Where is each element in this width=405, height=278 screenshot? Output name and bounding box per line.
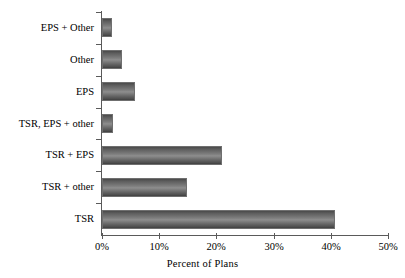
y-axis-label: EPS + Other bbox=[41, 22, 94, 34]
bar-fill bbox=[102, 146, 222, 165]
bar-fill bbox=[102, 114, 113, 133]
y-tick-mark bbox=[96, 12, 102, 13]
y-tick-mark bbox=[96, 203, 102, 204]
x-tick-label: 50% bbox=[358, 241, 405, 253]
x-tick-label: 0% bbox=[72, 241, 132, 253]
x-tick-label: 10% bbox=[129, 241, 189, 253]
y-tick-mark bbox=[96, 108, 102, 109]
x-tick-mark bbox=[216, 233, 217, 239]
x-tick-mark bbox=[102, 233, 103, 239]
x-tick-label: 40% bbox=[301, 241, 361, 253]
x-axis-line bbox=[101, 235, 389, 236]
x-tick-label: 30% bbox=[244, 241, 304, 253]
y-axis-label: TSR, EPS + other bbox=[19, 118, 94, 130]
y-tick-mark bbox=[96, 76, 102, 77]
y-axis-label: TSR + other bbox=[42, 181, 94, 193]
y-tick-mark bbox=[96, 139, 102, 140]
y-axis-label: Other bbox=[70, 54, 94, 66]
bar-fill bbox=[102, 178, 187, 197]
bar-fill bbox=[102, 50, 122, 69]
x-tick-mark bbox=[274, 233, 275, 239]
bar-fill bbox=[102, 82, 135, 101]
bar-fill bbox=[102, 18, 112, 37]
x-tick-mark bbox=[331, 233, 332, 239]
y-axis-label: TSR + EPS bbox=[45, 149, 94, 161]
x-tick-mark bbox=[388, 233, 389, 239]
y-tick-mark bbox=[96, 171, 102, 172]
x-tick-label: 20% bbox=[186, 241, 246, 253]
bar-chart: TSRTSR + otherTSR + EPSTSR, EPS + otherE… bbox=[0, 0, 405, 278]
y-axis-label: TSR bbox=[75, 213, 94, 225]
plot-area bbox=[102, 12, 388, 235]
x-tick-mark bbox=[159, 233, 160, 239]
bar-fill bbox=[102, 210, 335, 229]
y-axis-label: EPS bbox=[76, 86, 94, 98]
x-axis-title: Percent of Plans bbox=[0, 258, 405, 270]
y-tick-mark bbox=[96, 44, 102, 45]
